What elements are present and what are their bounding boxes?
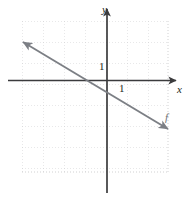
graph-figure: y x 1 1 f: [0, 0, 190, 201]
grid-lines: [22, 21, 168, 172]
x-axis-unit-tick-label: 1: [119, 83, 125, 94]
function-label-f: f: [165, 112, 168, 123]
y-axis-unit-tick-label: 1: [99, 61, 105, 72]
x-axis-label: x: [177, 84, 182, 95]
y-axis-label: y: [102, 4, 107, 15]
coordinate-plane-plot: [0, 0, 190, 201]
